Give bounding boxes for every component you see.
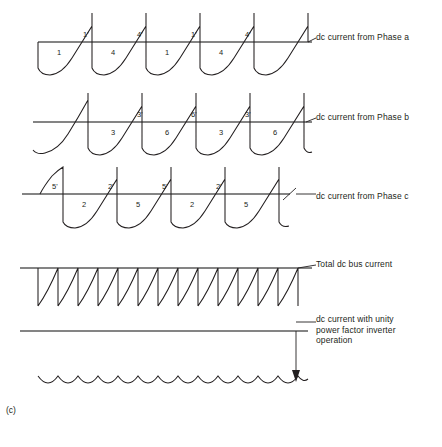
- phase-b-trace: [33, 93, 312, 155]
- phase-a-device-1p-2: 1': [191, 30, 197, 39]
- phase-b-device-6: 6: [165, 128, 169, 137]
- phase-c-device-5: 5: [136, 200, 140, 209]
- phase-c-device-5p: 5': [52, 182, 58, 191]
- phase-c-device-2p: 2': [108, 182, 114, 191]
- phase-c-device-5p-2: 5': [162, 182, 168, 191]
- unity-pf-trace: [38, 376, 308, 383]
- waveform-phase-a: 1' 1 4' 4 1' 1 4' 4: [38, 13, 316, 75]
- phase-b-device-6p: 6': [191, 110, 197, 119]
- phase-b-device-3p-2: 3': [245, 110, 251, 119]
- figure-caption: (c): [6, 405, 16, 415]
- label-dc-current-phase-c: dc current from Phase c: [316, 191, 409, 202]
- waveform-canvas: 1' 1 4' 4 1' 1 4' 4 3' 3 6' 6 3' 3 6: [0, 0, 442, 447]
- figure-dc-current-waveforms: 1' 1 4' 4 1' 1 4' 4 3' 3 6' 6 3' 3 6: [0, 0, 442, 447]
- phase-c-device-2-2: 2: [190, 200, 194, 209]
- waveform-total-dc-bus: [20, 265, 316, 306]
- total-bus-trace: [38, 268, 298, 306]
- label-total-dc-bus-current: Total dc bus current: [316, 259, 392, 270]
- phase-a-device-1-2: 1: [165, 48, 169, 57]
- phase-b-device-3-2: 3: [219, 128, 223, 137]
- phase-a-device-4p-2: 4': [245, 30, 251, 39]
- waveform-phase-c: 5' 2 2' 5 5' 2 2' 5: [22, 167, 316, 228]
- phase-a-device-1: 1: [57, 48, 61, 57]
- label-dc-current-phase-a: dc current from Phase a: [316, 32, 409, 43]
- phase-c-trace: [40, 167, 289, 228]
- phase-c-device-2: 2: [82, 200, 86, 209]
- label-dc-current-unity-power-factor: dc current with unity power factor inver…: [316, 314, 396, 346]
- phase-a-device-4: 4: [111, 48, 115, 57]
- phase-a-trace: [38, 13, 308, 75]
- phase-c-device-2p-2: 2': [216, 182, 222, 191]
- phase-b-device-3: 3: [111, 128, 115, 137]
- phase-a-device-4p: 4': [137, 30, 143, 39]
- waveform-unity-pf: [20, 322, 316, 383]
- phase-a-device-4-2: 4: [219, 48, 223, 57]
- phase-a-device-1p: 1': [83, 30, 89, 39]
- phase-c-device-5-2: 5: [244, 200, 248, 209]
- phase-b-device-6-2: 6: [273, 128, 277, 137]
- waveform-phase-b: 3' 3 6' 6 3' 3 6: [33, 93, 316, 155]
- label-dc-current-phase-b: dc current from Phase b: [316, 112, 409, 123]
- unity-pf-dimension-arrow-head: [292, 370, 300, 382]
- phase-b-device-3p: 3': [137, 110, 143, 119]
